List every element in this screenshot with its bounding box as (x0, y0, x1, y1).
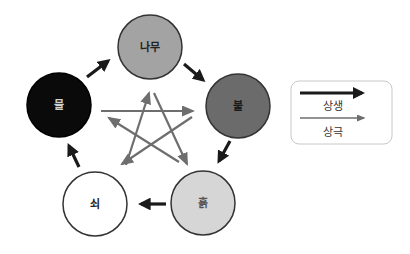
node-label-wood: 나무 (140, 40, 160, 54)
node-label-metal: 쇠 (90, 197, 100, 211)
node-label-earth: 흙 (198, 196, 208, 210)
overcoming-arrows (101, 93, 193, 165)
node-wood: 나무 (118, 15, 182, 79)
legend: 상생 상극 (291, 81, 392, 144)
legend-label-generating: 상생 (323, 100, 343, 113)
node-label-water: 물 (54, 99, 64, 112)
node-label-fire: 불 (233, 100, 243, 113)
arrow-wood-to-earth (154, 93, 187, 164)
arrow-fire-to-earth (219, 141, 230, 161)
arrow-metal-to-water (69, 146, 79, 167)
node-earth: 흙 (171, 171, 235, 235)
arrow-water-to-wood (87, 61, 108, 77)
arrow-wood-to-fire (184, 64, 203, 80)
arrow-fire-to-metal (122, 117, 192, 164)
five-elements-diagram: 나무 불 흙 쇠 물 상생 상극 (0, 0, 410, 254)
node-water: 물 (27, 73, 91, 137)
legend-label-overcoming: 상극 (323, 126, 343, 139)
node-fire: 불 (206, 74, 270, 138)
node-metal: 쇠 (63, 172, 127, 236)
